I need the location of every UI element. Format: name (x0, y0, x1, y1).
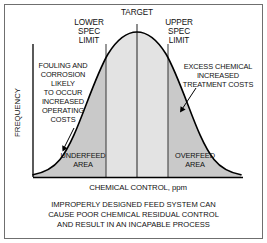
underfeed-consequence-annotation: FOULING AND CORROSION LIKELY TO OCCUR IN… (30, 61, 96, 124)
underfeed-area-label: UNDERFEED AREA (56, 152, 110, 170)
upper-spec-limit-label: UPPER SPEC LIMIT (152, 19, 206, 46)
caption-line-1: IMPROPERLY DESIGNED FEED SYSTEM CAN (14, 200, 253, 210)
overfeed-area-label: OVERFEED AREA (168, 152, 222, 170)
y-axis-label: FREQUENCY (13, 75, 22, 151)
lower-spec-limit-label: LOWER SPEC LIMIT (62, 19, 116, 46)
overfeed-consequence-annotation: EXCESS CHEMICAL INCREASED TREATMENT COST… (176, 62, 260, 89)
figure-caption: IMPROPERLY DESIGNED FEED SYSTEM CAN CAUS… (14, 200, 253, 230)
caption-line-3: AND RESULT IN AN INCAPABLE PROCESS (14, 220, 253, 230)
caption-line-2: CAUSE POOR CHEMICAL RESIDUAL CONTROL (14, 210, 253, 220)
x-axis-label: CHEMICAL CONTROL, ppm (33, 184, 243, 192)
target-label: TARGET (106, 9, 168, 18)
figure-container: TARGET LOWER SPEC LIMIT UPPER SPEC LIMIT… (0, 0, 267, 243)
